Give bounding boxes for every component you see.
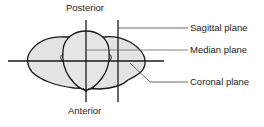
planes-diagram: [0, 0, 264, 127]
posterior-label: Posterior: [66, 3, 104, 13]
anterior-label: Anterior: [68, 106, 101, 116]
median-plane-label: Median plane: [190, 45, 247, 55]
coronal-plane-label: Coronal plane: [190, 77, 249, 87]
sagittal-plane-label: Sagittal plane: [190, 23, 248, 33]
